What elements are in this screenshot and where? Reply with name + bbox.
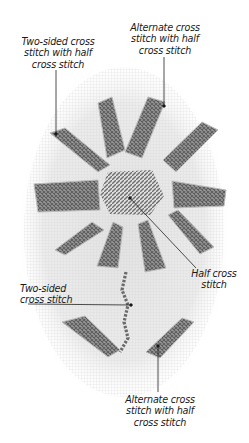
label-two-sided-cross: Two-sided cross stitch (20, 283, 80, 306)
label-half-cross-stitch: Half cross stitch (184, 268, 244, 291)
label-alternate-cross-bottom: Alternate cross stitch with half cross s… (110, 394, 210, 428)
petal-left (34, 180, 100, 212)
label-alternate-cross-top: Alternate cross stitch with half cross s… (118, 22, 212, 56)
flower-center-half-cross (100, 170, 164, 215)
label-two-sided-half-cross: Two-sided cross stitch with half cross s… (12, 36, 104, 70)
